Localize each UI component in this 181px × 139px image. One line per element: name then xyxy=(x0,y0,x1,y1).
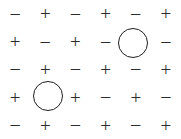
minus-sign: − xyxy=(130,59,141,79)
grid-cell: − xyxy=(60,111,90,139)
grid-cell: + xyxy=(151,111,181,139)
minus-sign: − xyxy=(70,3,81,23)
minus-sign: − xyxy=(160,87,171,107)
minus-sign: − xyxy=(70,115,81,135)
plus-sign: + xyxy=(10,87,21,106)
grid-cell xyxy=(121,28,151,56)
grid-cell: − xyxy=(90,83,120,111)
grid-cell: − xyxy=(151,83,181,111)
grid-cell: + xyxy=(151,0,181,28)
minus-sign: − xyxy=(100,31,111,51)
minus-sign: − xyxy=(9,59,20,79)
grid-cell: − xyxy=(151,28,181,56)
grid-cell: − xyxy=(30,28,60,56)
plus-sign: + xyxy=(161,59,172,78)
plus-sign: + xyxy=(40,115,51,134)
minus-sign: − xyxy=(9,115,20,135)
sign-grid-figure: −+−+−++−+−−−+−+−+++−+−−+−+−+ xyxy=(0,0,181,139)
grid-cell: + xyxy=(30,56,60,84)
plus-sign: + xyxy=(70,87,81,106)
grid-cell xyxy=(30,83,60,111)
minus-sign: − xyxy=(100,87,111,107)
plus-sign: + xyxy=(40,4,51,23)
grid-cell: + xyxy=(0,83,30,111)
sign-grid: −+−+−++−+−−−+−+−+++−+−−+−+−+ xyxy=(0,0,181,139)
plus-sign: + xyxy=(161,4,172,23)
minus-sign: − xyxy=(130,115,141,135)
grid-cell: + xyxy=(60,83,90,111)
minus-sign: − xyxy=(70,59,81,79)
grid-cell: + xyxy=(30,0,60,28)
minus-sign: − xyxy=(160,31,171,51)
plus-sign: + xyxy=(130,87,141,106)
plus-sign: + xyxy=(40,59,51,78)
plus-sign: + xyxy=(10,32,21,51)
minus-sign: − xyxy=(40,31,51,51)
plus-sign: + xyxy=(100,4,111,23)
grid-cell: + xyxy=(0,28,30,56)
grid-cell: − xyxy=(60,0,90,28)
plus-sign: + xyxy=(161,115,172,134)
plus-sign: + xyxy=(70,32,81,51)
plus-sign: + xyxy=(100,59,111,78)
grid-cell: + xyxy=(90,0,120,28)
minus-sign: − xyxy=(130,3,141,23)
grid-cell: − xyxy=(60,56,90,84)
grid-cell: + xyxy=(60,28,90,56)
grid-cell: − xyxy=(0,56,30,84)
grid-cell: + xyxy=(151,56,181,84)
grid-cell: − xyxy=(121,56,151,84)
grid-cell: + xyxy=(30,111,60,139)
grid-cell: − xyxy=(0,111,30,139)
grid-cell: + xyxy=(90,56,120,84)
grid-cell: + xyxy=(90,111,120,139)
grid-cell: + xyxy=(121,83,151,111)
grid-cell: − xyxy=(121,111,151,139)
grid-cell: − xyxy=(90,28,120,56)
plus-sign: + xyxy=(100,115,111,134)
grid-cell: − xyxy=(0,0,30,28)
minus-sign: − xyxy=(9,3,20,23)
grid-cell: − xyxy=(121,0,151,28)
